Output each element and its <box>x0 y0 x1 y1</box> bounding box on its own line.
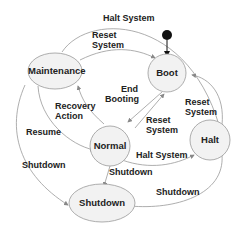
state-normal: Normal <box>90 140 130 151</box>
label-reset-system-top: ResetSystem <box>92 30 124 50</box>
label-halt-system-mid: Halt System <box>136 150 188 160</box>
label-end-booting: EndBooting <box>105 84 138 104</box>
state-boot: Boot <box>148 67 186 78</box>
state-shutdown: Shutdown <box>70 197 134 208</box>
state-halt: Halt <box>190 134 230 145</box>
initial-state-dot <box>162 30 172 40</box>
label-reset-system-mid: ResetSystem <box>146 115 178 135</box>
label-reset-system-right: ResetSystem <box>185 97 217 117</box>
state-maintenance: Maintenance <box>28 65 82 76</box>
label-halt-system-top: Halt System <box>103 13 155 23</box>
label-recovery-action: RecoveryAction <box>55 101 96 121</box>
label-shutdown-left: Shutdown <box>22 160 66 170</box>
label-shutdown-mid: Shutdown <box>109 167 153 177</box>
label-shutdown-right: Shutdown <box>156 187 200 197</box>
label-resume: Resume <box>26 127 61 137</box>
